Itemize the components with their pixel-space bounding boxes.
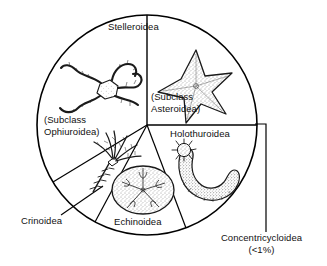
label-subclass-asteroidea: (Subclass Asteroidea) [151, 91, 221, 114]
label-concentricycloidea-line1: Concentricycloidea [221, 232, 302, 243]
sand-dollar-illustration [112, 166, 174, 214]
label-asteroidea-line2: Asteroidea) [151, 103, 200, 114]
label-echinoidea: Echinoidea [114, 216, 162, 227]
label-holothuroidea: Holothuroidea [170, 128, 230, 139]
echinoderm-pie-chart-figure: Stelleroidea (Subclass Asteroidea) (Subc… [0, 0, 327, 266]
label-stelleroidea: Stelleroidea [108, 21, 159, 32]
label-concentricycloidea: Concentricycloidea (<1%) [199, 232, 324, 255]
label-asteroidea-line1: (Subclass [151, 91, 193, 102]
label-concentricycloidea-line2: (<1%) [249, 244, 275, 255]
label-subclass-ophiuroidea: (Subclass Ophiuroidea) [44, 114, 118, 137]
label-ophiuroidea-line1: (Subclass [44, 114, 86, 125]
label-crinoidea: Crinoidea [21, 215, 62, 226]
label-ophiuroidea-line2: Ophiuroidea) [44, 126, 100, 137]
